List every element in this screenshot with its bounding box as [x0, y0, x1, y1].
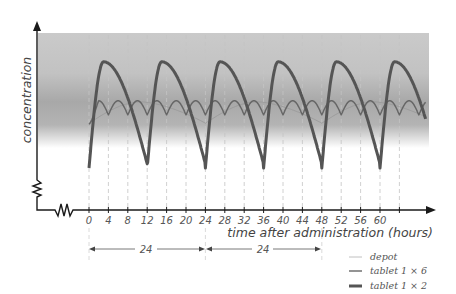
y-axis-arrow-icon [33, 21, 41, 31]
x-tick-label: 16 [160, 215, 173, 226]
interval-label-first: 24 [140, 244, 153, 255]
legend: depot tablet 1 × 6 tablet 1 × 2 [349, 251, 427, 291]
x-tick-label: 24 [199, 215, 212, 226]
legend-label-tablet-1x2: tablet 1 × 2 [370, 280, 427, 291]
x-tick-label: 8 [125, 215, 131, 226]
x-axis-title: time after administration (hours) [227, 225, 433, 240]
interval-label-second: 24 [257, 244, 270, 255]
x-tick-label: 0 [86, 215, 92, 226]
x-axis-arrow-icon [426, 206, 436, 214]
legend-label-depot: depot [370, 251, 398, 262]
x-tick-label: 12 [141, 215, 154, 226]
legend-label-tablet-1x6: tablet 1 × 6 [370, 265, 427, 276]
y-axis-title: concentration [19, 57, 34, 144]
pharmacokinetics-chart: 04812162024283236404448525660 concentrat… [0, 0, 456, 294]
x-tick-label: 20 [180, 215, 193, 226]
x-tick-label: 4 [105, 215, 111, 226]
